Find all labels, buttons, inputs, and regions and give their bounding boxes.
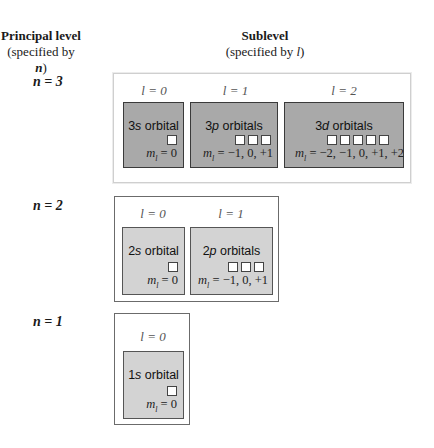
sublevel-header: Sublevel (specified by l): [200, 28, 330, 60]
orbital-title-1s: 1s orbital: [124, 368, 183, 382]
orbital-title-2p: 2p orbitals: [191, 244, 272, 258]
orbital-title-2s: 2s orbital: [123, 244, 184, 258]
orbital-square: [235, 135, 245, 145]
n3-l0-label: l = 0: [124, 83, 184, 99]
orbital-box-3p: 3p orbitals ml = −1, 0, +1: [190, 102, 278, 168]
n2-l1-label: l = 1: [189, 206, 273, 222]
principal-level-subtitle: (specified by n): [0, 44, 82, 76]
n3-sublevel-group: l = 0 l = 1 l = 2 3s orbital ml = 0 3p o…: [113, 73, 411, 183]
orbital-title-3s: 3s orbital: [124, 119, 183, 133]
orbital-squares-3p: [235, 135, 271, 145]
ml-values-3p: ml = −1, 0, +1: [203, 146, 273, 163]
orbital-square: [327, 135, 337, 145]
n2-sublevel-group: l = 0 l = 1 2s orbital ml = 0 2p orbital…: [114, 196, 279, 302]
orbital-squares-3d: [327, 135, 389, 145]
orbital-squares-2s: [168, 262, 178, 272]
orbital-square: [366, 135, 376, 145]
sublevel-subtitle: (specified by l): [200, 44, 330, 60]
ml-values-3s: ml = 0: [146, 146, 177, 163]
orbital-squares-3s: [167, 135, 177, 145]
orbital-square: [167, 135, 177, 145]
orbital-square: [168, 262, 178, 272]
orbital-box-3d: 3d orbitals ml = −2, −1, 0, +1, +2: [284, 102, 404, 168]
orbital-box-2p: 2p orbitals ml = −1, 0, +1: [190, 227, 273, 295]
n1-label: n = 1: [33, 314, 63, 330]
orbital-square: [340, 135, 350, 145]
orbital-square: [379, 135, 389, 145]
orbital-squares-1s: [167, 386, 177, 396]
orbital-square: [254, 262, 264, 272]
orbital-square: [241, 262, 251, 272]
ml-values-1s: ml = 0: [146, 397, 177, 414]
principal-level-title: Principal level: [0, 28, 82, 44]
ml-values-3d: ml = −2, −1, 0, +1, +2: [295, 146, 404, 163]
n2-label: n = 2: [33, 198, 63, 214]
n3-l1-label: l = 1: [193, 83, 278, 99]
orbital-box-2s: 2s orbital ml = 0: [122, 227, 185, 295]
orbital-squares-2p: [228, 262, 264, 272]
orbital-title-3p: 3p orbitals: [191, 119, 277, 133]
n3-label: n = 3: [33, 74, 63, 90]
orbital-box-1s: 1s orbital ml = 0: [123, 351, 184, 419]
orbital-square: [248, 135, 258, 145]
principal-level-header: Principal level (specified by n): [0, 28, 82, 76]
orbital-square: [261, 135, 271, 145]
orbital-box-3s: 3s orbital ml = 0: [123, 102, 184, 168]
n2-l0-label: l = 0: [121, 206, 185, 222]
orbital-square: [228, 262, 238, 272]
sublevel-title: Sublevel: [200, 28, 330, 44]
n1-sublevel-group: l = 0 1s orbital ml = 0: [114, 313, 190, 425]
n1-l0-label: l = 0: [115, 329, 191, 345]
orbital-square: [353, 135, 363, 145]
n3-l2-label: l = 2: [284, 83, 404, 99]
ml-values-2s: ml = 0: [147, 273, 178, 290]
orbital-square: [167, 386, 177, 396]
orbital-title-3d: 3d orbitals: [285, 119, 403, 133]
ml-values-2p: ml = −1, 0, +1: [198, 273, 268, 290]
